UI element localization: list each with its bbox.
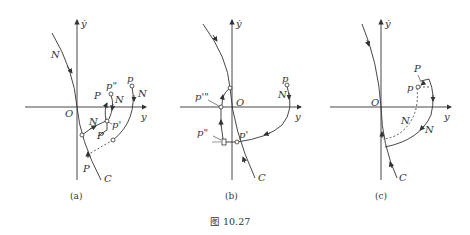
panel-a-point-lower (111, 138, 115, 142)
panel-a-P-inner: P (93, 90, 101, 101)
panel-c-P-label: P (413, 63, 421, 74)
panel-c: ẏ y O C N N p P (c) (330, 18, 451, 201)
panel-a: ẏ y O C N P p N P N p' p" P (25, 18, 148, 201)
panel-a-C-label: C (104, 173, 112, 184)
panel-b-p-prime-label: p' (239, 129, 248, 140)
panel-a-trajectory-inner-up (105, 103, 107, 120)
panel-a-N-upper: N (50, 49, 61, 60)
panel-a-y-label: y (140, 111, 147, 122)
panel-a-N-right: N (137, 88, 148, 99)
panel-a-ydot-label: ẏ (80, 18, 87, 29)
panel-b-p-double-label: p" (197, 127, 208, 138)
panel-c-p-label: p (407, 82, 414, 93)
panel-a-p-prime-label: p' (112, 119, 121, 130)
panel-b-point-p-prime (235, 140, 239, 144)
panel-c-ydot-label: ẏ (384, 18, 391, 29)
panel-c-leader-P (418, 75, 421, 82)
panel-a-origin-label: O (65, 108, 73, 119)
panel-b-point-final (228, 86, 232, 90)
panel-b-C-label: C (258, 172, 266, 183)
panel-b-N-label: N (277, 89, 288, 100)
panel-c-arrow-icon (420, 126, 424, 130)
panel-b-ydot-label: ẏ (235, 18, 242, 29)
panel-b-leader-p-triple (208, 100, 219, 106)
panel-b-point-p-triple (219, 105, 223, 109)
figure-caption: 图 10.27 (210, 216, 250, 227)
panel-b: ẏ y O C p N p' p" p'" (b) (180, 18, 301, 201)
panel-b-point-p-double (222, 139, 226, 145)
panel-a-point-p (130, 84, 134, 88)
panel-a-point-left (80, 133, 84, 137)
panel-c-arrow-icon (421, 82, 425, 85)
panel-c-y-label: y (443, 111, 450, 122)
panel-c-caption: (c) (375, 191, 387, 201)
panel-a-N-mid: N (88, 116, 99, 127)
panel-b-switching-curve (203, 24, 255, 178)
panel-c-N-outer: N (424, 124, 435, 135)
panel-c-switching-curve (362, 24, 397, 178)
panel-a-p-label: p (127, 73, 134, 84)
panel-a-P-mid: P (96, 130, 104, 141)
panel-a-point-p-double (109, 92, 113, 96)
panel-a-caption: (a) (70, 191, 82, 201)
panel-c-N-inner: N (400, 115, 411, 126)
panel-a-P-lower: P (82, 163, 90, 174)
panel-c-origin-label: O (371, 97, 379, 108)
panel-b-origin-label: O (236, 97, 244, 108)
panel-b-p-label: p (282, 73, 289, 84)
panel-b-p-triple-label: p'" (195, 91, 209, 102)
panel-a-N-inner: N (114, 94, 125, 105)
panel-c-C-label: C (399, 172, 407, 183)
panel-b-caption: (b) (225, 191, 238, 201)
panel-c-trajectory-inner (383, 88, 417, 139)
panel-b-arrow-icon (243, 157, 245, 163)
panel-b-y-label: y (294, 111, 301, 122)
panel-b-leader-p-double (213, 136, 221, 140)
phase-plane-figure: ẏ y O C N P p N P N p' p" P (0, 0, 470, 235)
panel-a-dashed-line (89, 140, 113, 154)
panel-c-point-p (416, 85, 420, 89)
panel-a-p-double-label: p" (106, 80, 117, 91)
